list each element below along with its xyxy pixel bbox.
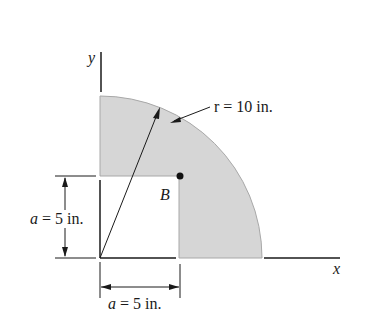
dim-h-arrow-left-icon bbox=[101, 284, 111, 290]
dim-v-arrow-up-icon bbox=[62, 177, 68, 187]
dim-v-arrow-down-icon bbox=[62, 247, 68, 257]
dim-h-arrow-right-icon bbox=[169, 284, 179, 290]
dim-vertical-var: a bbox=[30, 210, 38, 227]
dim-vertical-label: a = 5 in. bbox=[30, 210, 83, 227]
dim-horizontal-text: = 5 in. bbox=[116, 295, 161, 312]
point-b-label: B bbox=[160, 186, 170, 203]
point-b-dot bbox=[177, 173, 184, 180]
dim-horizontal-var: a bbox=[108, 295, 116, 312]
y-axis-label: y bbox=[86, 49, 96, 67]
radius-label: r = 10 in. bbox=[214, 98, 273, 115]
dim-vertical-text: = 5 in. bbox=[38, 210, 83, 227]
x-axis-label: x bbox=[332, 260, 340, 277]
quarter-circle-figure: y x r = 10 in. B a = 5 in. a = 5 in. bbox=[0, 0, 366, 324]
dim-horizontal-label: a = 5 in. bbox=[108, 295, 161, 312]
